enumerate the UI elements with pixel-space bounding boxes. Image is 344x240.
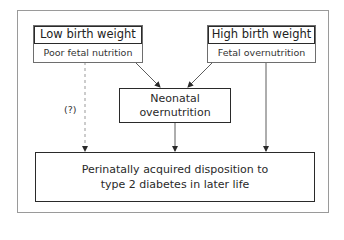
- outcome-line1: Perinatally acquired disposition to: [36, 162, 314, 177]
- outcome-line2: type 2 diabetes in later life: [36, 177, 314, 192]
- diabetes-disposition-box: Perinatally acquired disposition to type…: [35, 152, 315, 202]
- low-birth-weight-title: Low birth weight: [34, 26, 142, 44]
- arrow-high-to-neonatal: [188, 62, 213, 87]
- arrow-low-to-neonatal: [135, 62, 160, 87]
- fetal-overnutrition-label: Fetal overnutrition: [208, 44, 315, 63]
- low-birth-weight-box: Low birth weight Poor fetal nutrition: [33, 25, 143, 63]
- neonatal-line1: Neonatal: [120, 92, 230, 106]
- uncertain-label: (?): [64, 104, 76, 115]
- neonatal-overnutrition-box: Neonatal overnutrition: [119, 88, 231, 123]
- poor-fetal-nutrition-label: Poor fetal nutrition: [34, 44, 142, 63]
- high-birth-weight-title: High birth weight: [208, 26, 315, 44]
- neonatal-line2: overnutrition: [120, 106, 230, 120]
- high-birth-weight-box: High birth weight Fetal overnutrition: [207, 25, 316, 63]
